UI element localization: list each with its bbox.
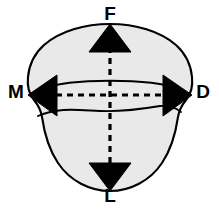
- axis-label-inferior: L: [99, 186, 121, 205]
- axis-label-superior: F: [99, 4, 121, 23]
- figure-container: F L M D: [0, 0, 219, 210]
- cross-section-diagram: [0, 0, 219, 210]
- axis-label-lateral: D: [192, 82, 214, 101]
- axis-label-medial: M: [5, 82, 27, 101]
